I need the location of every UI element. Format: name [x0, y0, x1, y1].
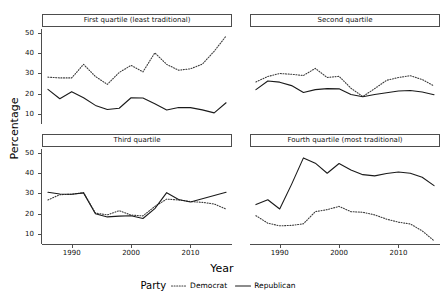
line-democrat [256, 206, 434, 240]
plot-area-fourth-quartile [250, 149, 440, 244]
x-axis-title: Year [0, 262, 444, 275]
legend-item-democrat: Democrat [171, 281, 227, 290]
plot-area-third-quartile [42, 149, 232, 244]
x-axis-tick-label: 1990 [59, 249, 85, 257]
y-axis-tick-label: 30 [18, 189, 34, 197]
chart-figure: Percentage 10203040501020304050 19902000… [0, 0, 444, 301]
x-axis-line [250, 244, 440, 245]
panel-fourth-quartile: Fourth quartile (most traditional) [250, 134, 440, 244]
line-republican [48, 192, 226, 218]
line-republican [48, 89, 226, 112]
y-axis-tick [38, 153, 41, 154]
x-axis-tick [72, 245, 73, 248]
y-axis-tick-label: 40 [18, 49, 34, 57]
legend-title: Party [140, 280, 166, 291]
x-axis-tick [280, 245, 281, 248]
y-axis-tick-label: 50 [18, 29, 34, 37]
y-axis-tick [38, 94, 41, 95]
panel-title-fourth-quartile: Fourth quartile (most traditional) [250, 134, 440, 147]
y-axis-tick [38, 53, 41, 54]
panel-title-first-quartile: First quartile (least traditional) [42, 14, 232, 27]
panel-third-quartile: Third quartile [42, 134, 232, 244]
y-axis-tick [38, 193, 41, 194]
plot-area-first-quartile [42, 29, 232, 124]
legend: PartyDemocratRepublican [0, 280, 444, 291]
facet-lines [250, 29, 440, 124]
line-republican [256, 158, 434, 209]
panel-second-quartile: Second quartile [250, 14, 440, 124]
y-axis-tick-label: 20 [18, 210, 34, 218]
y-axis-tick [38, 173, 41, 174]
line-democrat [48, 193, 226, 216]
y-axis-tick-label: 10 [18, 230, 34, 238]
x-axis-tick [398, 245, 399, 248]
y-axis-tick [38, 33, 41, 34]
legend-label: Democrat [190, 281, 227, 290]
y-axis-tick [38, 234, 41, 235]
plot-area-second-quartile [250, 29, 440, 124]
legend-key-solid [235, 282, 251, 290]
y-axis-tick [38, 73, 41, 74]
panel-title-second-quartile: Second quartile [250, 14, 440, 27]
facet-lines [42, 29, 232, 124]
y-axis-tick-label: 30 [18, 69, 34, 77]
x-axis-tick [190, 245, 191, 248]
panel-title-third-quartile: Third quartile [42, 134, 232, 147]
y-axis-tick [38, 214, 41, 215]
y-axis-tick-label: 40 [18, 169, 34, 177]
facet-lines [42, 149, 232, 244]
legend-label: Republican [254, 281, 295, 290]
y-axis-tick-label: 20 [18, 90, 34, 98]
x-axis-tick-label: 2010 [177, 249, 203, 257]
x-axis-tick [339, 245, 340, 248]
facet-grid: First quartile (least traditional) Secon… [42, 14, 440, 242]
facet-lines [250, 149, 440, 244]
panel-first-quartile: First quartile (least traditional) [42, 14, 232, 124]
y-axis-tick [38, 114, 41, 115]
x-axis-tick-label: 1990 [267, 249, 293, 257]
legend-item-republican: Republican [235, 281, 295, 290]
x-axis-tick-label: 2000 [118, 249, 144, 257]
x-axis-tick-label: 2000 [326, 249, 352, 257]
y-axis-tick-label: 10 [18, 110, 34, 118]
x-axis-tick [131, 245, 132, 248]
x-axis-tick-label: 2010 [385, 249, 411, 257]
y-axis-tick-label: 50 [18, 149, 34, 157]
x-axis-line [42, 244, 232, 245]
line-republican [256, 81, 434, 97]
line-democrat [48, 36, 226, 84]
legend-key-dotted [171, 282, 187, 290]
